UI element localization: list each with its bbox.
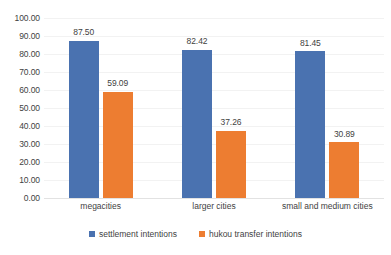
bar[interactable] [216, 131, 246, 198]
plot-area: 87.5059.0982.4237.2681.4530.89 [44, 18, 384, 198]
bar-value-label: 87.50 [73, 28, 94, 37]
legend-label: hukou transfer intentions [209, 230, 302, 239]
bar[interactable] [69, 41, 99, 199]
bar-value-label: 59.09 [107, 79, 128, 88]
y-axis-tick-label: 30.00 [19, 140, 40, 149]
bar-group: 82.4237.26 [182, 18, 246, 198]
bar-value-label: 82.42 [187, 37, 208, 46]
y-axis-tick-label: 60.00 [19, 86, 40, 95]
x-axis-tick-label: megacities [80, 202, 121, 211]
y-axis-tick-label: 90.00 [19, 32, 40, 41]
bar[interactable] [295, 51, 325, 198]
legend-swatch-icon [89, 231, 95, 237]
y-axis-tick-label: 100.00 [15, 14, 40, 23]
bar-value-label: 81.45 [300, 39, 321, 48]
legend: settlement intentionshukou transfer inte… [0, 230, 391, 239]
legend-item[interactable]: settlement intentions [89, 230, 177, 239]
bar[interactable] [103, 92, 133, 198]
bar-group: 81.4530.89 [295, 18, 359, 198]
x-axis: megacitieslarger citiessmall and medium … [44, 202, 384, 218]
x-axis-tick-label: larger cities [192, 202, 235, 211]
y-axis-tick-label: 20.00 [19, 158, 40, 167]
y-axis-tick-label: 0.00 [24, 194, 40, 203]
y-axis: 0.0010.0020.0030.0040.0050.0060.0070.008… [0, 18, 40, 198]
y-axis-tick-label: 80.00 [19, 50, 40, 59]
y-axis-tick-label: 40.00 [19, 122, 40, 131]
legend-swatch-icon [199, 231, 205, 237]
gridline [44, 198, 384, 199]
legend-item[interactable]: hukou transfer intentions [199, 230, 302, 239]
bar-value-label: 30.89 [334, 130, 355, 139]
bar[interactable] [182, 50, 212, 198]
bar-chart: 0.0010.0020.0030.0040.0050.0060.0070.008… [0, 0, 391, 255]
y-axis-tick-label: 10.00 [19, 176, 40, 185]
bar-group: 87.5059.09 [69, 18, 133, 198]
bar[interactable] [329, 142, 359, 198]
x-axis-tick-label: small and medium cities [282, 202, 373, 211]
y-axis-tick-label: 70.00 [19, 68, 40, 77]
legend-label: settlement intentions [99, 230, 177, 239]
y-axis-tick-label: 50.00 [19, 104, 40, 113]
bar-value-label: 37.26 [221, 118, 242, 127]
